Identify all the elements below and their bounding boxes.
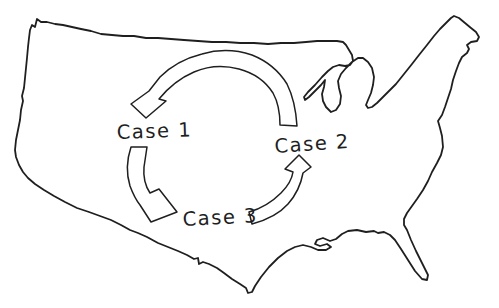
sketch-figure: Case 1 Case 2 Case 3	[0, 0, 499, 308]
arrow-case3-to-case2	[249, 155, 311, 224]
case-2-label: Case 2	[274, 130, 351, 158]
arrow-case1-to-case3	[127, 147, 177, 222]
case-1-label: Case 1	[116, 118, 192, 144]
case-3-label: Case 3	[182, 204, 258, 231]
us-map-cycle-svg: Case 1 Case 2 Case 3	[0, 0, 499, 308]
arrow-case2-to-case1	[131, 51, 297, 126]
